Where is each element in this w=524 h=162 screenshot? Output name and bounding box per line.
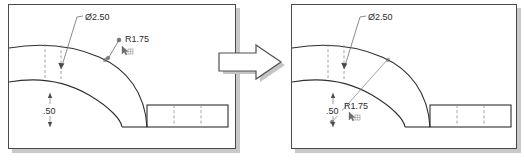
outer-arc [292,45,430,127]
diameter-leader-line [61,17,77,69]
diameter-leader-line [344,17,360,69]
thickness-arrow-down-before [48,122,52,127]
outer-arc [9,45,147,127]
transform-arrow-svg [216,44,288,90]
thickness-label-before[interactable]: .50 [43,106,56,116]
figure-root: Ø2.50 Ø R1.75 .50 [0,0,524,162]
drag-cursor-icon-before [122,46,133,55]
block-rectangle [147,105,228,127]
before-panel-drawing: Ø2.50 Ø R1.75 .50 [9,5,235,148]
radius-leader-line-before [109,40,119,57]
after-panel: Ø2.50 Ø R1.75 .50 [291,4,517,149]
after-panel-drawing: Ø2.50 Ø R1.75 .50 [292,5,516,148]
radius-anchor-point-before [106,56,110,60]
diameter-leader-arrowhead [341,63,347,69]
transform-arrow [216,44,288,90]
radius-label-after[interactable]: R1.75 [344,101,368,111]
drag-cursor-icon-after [349,112,360,121]
diameter-leader-arrowhead [58,63,64,69]
radius-label-before[interactable]: R1.75 [125,34,149,44]
diameter-label-before[interactable]: Ø2.50 [85,12,110,22]
before-panel: Ø2.50 Ø R1.75 .50 [8,4,236,149]
thickness-arrow-up-after [331,93,335,98]
diameter-leader-shoulder [77,16,83,17]
thickness-arrow-up-before [48,93,52,98]
inner-arc [9,80,122,127]
diameter-label-after[interactable]: Ø2.50 [368,12,393,22]
diameter-leader-shoulder [360,16,366,17]
thickness-arrow-down-after [331,122,335,127]
block-rectangle [430,105,511,127]
thickness-label-after[interactable]: .50 [326,106,339,116]
